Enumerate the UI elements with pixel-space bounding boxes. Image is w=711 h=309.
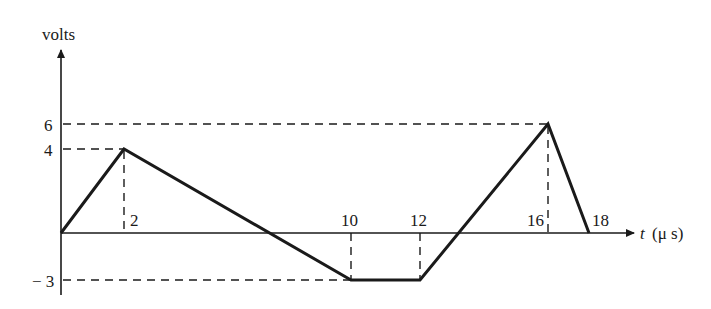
y-tick-6: 6 bbox=[44, 116, 53, 135]
y-axis-label: volts bbox=[42, 25, 75, 44]
x-tick-12: 12 bbox=[410, 211, 427, 230]
reference-lines bbox=[63, 124, 548, 280]
x-axis-label-unit: (μ s) bbox=[652, 224, 683, 243]
voltage-waveform-chart: volts 6 4 − 3 2 10 12 16 18 t (μ s) bbox=[0, 0, 711, 309]
waveform-line bbox=[61, 124, 589, 280]
x-tick-2: 2 bbox=[130, 211, 139, 230]
x-tick-18: 18 bbox=[592, 211, 609, 230]
x-tick-16: 16 bbox=[527, 211, 544, 230]
x-tick-10: 10 bbox=[341, 211, 358, 230]
x-axis-label-t: t bbox=[640, 224, 646, 243]
y-tick-minus3: − 3 bbox=[32, 272, 54, 291]
y-tick-4: 4 bbox=[44, 141, 53, 160]
